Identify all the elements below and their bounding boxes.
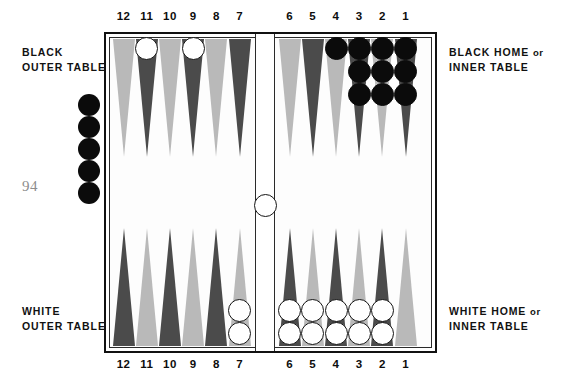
- checker-black-top-1[interactable]: [394, 37, 417, 60]
- label-black-home-or: or: [533, 47, 544, 58]
- checker-black-top-3[interactable]: [348, 60, 371, 83]
- point-number-top-9: 9: [184, 10, 202, 22]
- point-number-bottom-3: 3: [350, 358, 368, 370]
- checker-black-top-2[interactable]: [371, 60, 394, 83]
- checker-white-bottom-4[interactable]: [325, 299, 348, 322]
- point-number-top-1: 1: [397, 10, 415, 22]
- point-top-12[interactable]: [113, 39, 135, 157]
- label-white-home-line1: WHITE HOME or: [449, 304, 541, 319]
- label-white-home-or: or: [530, 306, 541, 317]
- point-number-bottom-9: 9: [184, 358, 202, 370]
- checker-white-bottom-6[interactable]: [278, 299, 301, 322]
- point-number-bottom-4: 4: [327, 358, 345, 370]
- point-number-top-11: 11: [138, 10, 156, 22]
- checker-white-bottom-2[interactable]: [371, 299, 394, 322]
- label-white-outer-line1: WHITE: [22, 304, 106, 319]
- point-number-top-4: 4: [327, 10, 345, 22]
- label-black-home-line1: BLACK HOME or: [449, 45, 544, 60]
- borne-off-checker-black[interactable]: [78, 116, 100, 138]
- point-number-top-3: 3: [350, 10, 368, 22]
- checker-white-bottom-2[interactable]: [371, 322, 394, 345]
- point-bottom-12[interactable]: [113, 228, 135, 346]
- label-black-home-line2: INNER TABLE: [449, 60, 544, 75]
- checker-black-top-1[interactable]: [394, 83, 417, 106]
- checker-black-top-3[interactable]: [348, 83, 371, 106]
- label-white-home-table: WHITE HOME or INNER TABLE: [449, 304, 541, 334]
- label-black-outer-line1: BLACK: [22, 45, 106, 60]
- point-bottom-1[interactable]: [395, 228, 417, 346]
- borne-off-checker-black[interactable]: [78, 138, 100, 160]
- point-top-5[interactable]: [302, 39, 324, 157]
- point-number-bottom-10: 10: [161, 358, 179, 370]
- backgammon-diagram: 94 BLACK OUTER TABLE WHITE OUTER TABLE B…: [0, 0, 572, 389]
- point-number-top-2: 2: [373, 10, 391, 22]
- checker-black-top-3[interactable]: [348, 37, 371, 60]
- point-number-top-8: 8: [207, 10, 225, 22]
- point-number-top-6: 6: [281, 10, 299, 22]
- borne-off-checker-black[interactable]: [78, 182, 100, 204]
- borne-off-checker-black[interactable]: [78, 160, 100, 182]
- point-bottom-10[interactable]: [159, 228, 181, 346]
- point-number-bottom-1: 1: [397, 358, 415, 370]
- point-top-8[interactable]: [205, 39, 227, 157]
- label-black-home-main: BLACK HOME: [449, 46, 529, 58]
- label-black-outer-table: BLACK OUTER TABLE: [22, 45, 106, 75]
- point-number-top-7: 7: [231, 10, 249, 22]
- checker-white-bottom-3[interactable]: [348, 322, 371, 345]
- label-black-home-table: BLACK HOME or INNER TABLE: [449, 45, 544, 75]
- label-white-outer-table: WHITE OUTER TABLE: [22, 304, 106, 334]
- checker-white-bottom-3[interactable]: [348, 299, 371, 322]
- point-number-bottom-11: 11: [138, 358, 156, 370]
- borne-off-checker-black[interactable]: [78, 94, 100, 116]
- point-top-7[interactable]: [229, 39, 251, 157]
- point-number-bottom-8: 8: [207, 358, 225, 370]
- checker-white-top-9[interactable]: [182, 37, 205, 60]
- point-top-10[interactable]: [159, 39, 181, 157]
- point-number-bottom-2: 2: [373, 358, 391, 370]
- checker-white-bottom-7[interactable]: [228, 322, 251, 345]
- point-number-bottom-5: 5: [304, 358, 322, 370]
- label-white-home-line2: INNER TABLE: [449, 319, 541, 334]
- point-number-bottom-6: 6: [281, 358, 299, 370]
- label-white-outer-line2: OUTER TABLE: [22, 319, 106, 334]
- point-bottom-9[interactable]: [182, 228, 204, 346]
- point-top-6[interactable]: [279, 39, 301, 157]
- point-number-top-5: 5: [304, 10, 322, 22]
- point-number-bottom-7: 7: [231, 358, 249, 370]
- checker-white-bottom-7[interactable]: [228, 299, 251, 322]
- point-number-top-10: 10: [161, 10, 179, 22]
- point-bottom-8[interactable]: [205, 228, 227, 346]
- label-white-home-main: WHITE HOME: [449, 305, 526, 317]
- point-number-top-12: 12: [115, 10, 133, 22]
- label-black-outer-line2: OUTER TABLE: [22, 60, 106, 75]
- checker-white-on-bar[interactable]: [254, 194, 277, 217]
- page-folio: 94: [22, 178, 38, 195]
- checker-white-bottom-6[interactable]: [278, 322, 301, 345]
- board-bar: [255, 34, 275, 351]
- checker-black-top-2[interactable]: [371, 83, 394, 106]
- checker-white-bottom-4[interactable]: [325, 322, 348, 345]
- checker-black-top-4[interactable]: [325, 37, 348, 60]
- checker-black-top-1[interactable]: [394, 60, 417, 83]
- point-bottom-11[interactable]: [136, 228, 158, 346]
- checker-black-top-2[interactable]: [371, 37, 394, 60]
- point-number-bottom-12: 12: [115, 358, 133, 370]
